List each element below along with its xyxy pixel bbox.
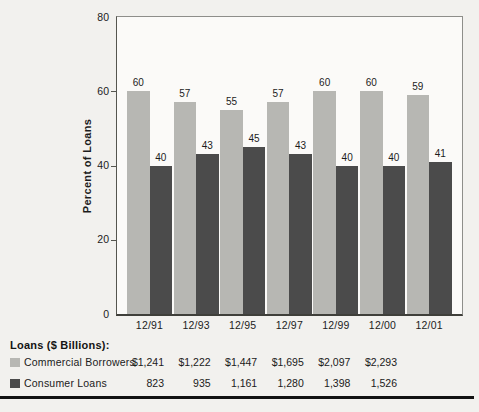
legend-swatch-commercial xyxy=(10,358,20,367)
x-tick-label-12-91: 12/91 xyxy=(127,319,173,331)
bar-commercial-12/99 xyxy=(313,91,336,314)
x-tick-label-12-00: 12/00 xyxy=(360,319,406,331)
bar-value-label: 41 xyxy=(423,148,457,159)
y-tick-mark-20 xyxy=(111,240,117,241)
bar-consumer-12/95 xyxy=(243,147,266,314)
bar-commercial-12/01 xyxy=(407,95,430,314)
bar-value-label: 57 xyxy=(168,88,202,99)
y-tick-label-20: 20 xyxy=(85,233,109,246)
table-cell-consumer-5: 1,526 xyxy=(327,377,397,389)
bar-value-label: 60 xyxy=(354,77,388,88)
bar-consumer-12/01 xyxy=(429,162,452,314)
bar-value-label: 60 xyxy=(121,77,155,88)
loans-figure: Percent of Loans 020406080604012/9157431… xyxy=(0,0,479,412)
bar-value-label: 55 xyxy=(214,96,248,107)
bar-commercial-12/93 xyxy=(174,102,197,314)
bar-consumer-12/00 xyxy=(383,166,406,315)
bar-consumer-12/93 xyxy=(196,154,219,314)
bar-consumer-12/97 xyxy=(289,154,312,314)
bar-consumer-12/99 xyxy=(336,166,359,315)
bar-commercial-12/97 xyxy=(267,102,290,314)
legend-swatch-consumer xyxy=(10,379,20,388)
x-tick-label-12-97: 12/97 xyxy=(266,319,312,331)
bar-value-label: 57 xyxy=(261,88,295,99)
y-tick-mark-60 xyxy=(111,91,117,92)
bottom-rule xyxy=(0,396,474,399)
x-tick-label-12-93: 12/93 xyxy=(173,319,219,331)
x-tick-label-12-01: 12/01 xyxy=(406,319,452,331)
bar-commercial-12/00 xyxy=(360,91,383,314)
bar-value-label: 60 xyxy=(308,77,342,88)
bar-commercial-12/91 xyxy=(127,91,150,314)
plot-area: Percent of Loans 020406080604012/9157431… xyxy=(116,16,463,316)
bar-consumer-12/91 xyxy=(150,166,173,315)
y-tick-mark-40 xyxy=(111,166,117,167)
table-cell-commercial-5: $2,293 xyxy=(327,356,397,368)
loans-table-heading: Loans ($ Billions): xyxy=(10,339,110,351)
y-tick-label-60: 60 xyxy=(85,85,109,98)
x-tick-label-12-95: 12/95 xyxy=(220,319,266,331)
y-tick-label-0: 0 xyxy=(85,308,109,321)
y-tick-label-80: 80 xyxy=(85,11,109,24)
bar-value-label: 59 xyxy=(401,81,435,92)
x-tick-label-12-99: 12/99 xyxy=(313,319,359,331)
y-tick-label-40: 40 xyxy=(85,159,109,172)
